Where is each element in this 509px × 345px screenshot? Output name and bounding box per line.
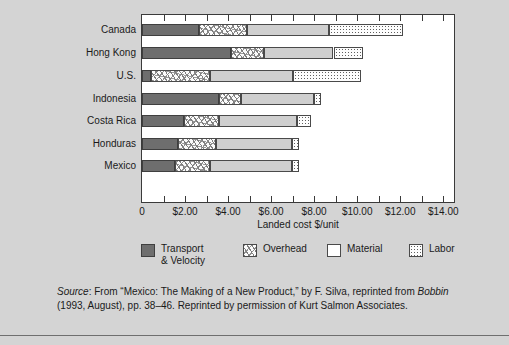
category-axis-labels: CanadaHong KongU.S.IndonesiaCosta RicaHo…	[38, 14, 136, 203]
bottom-divider	[0, 335, 509, 336]
category-label: Costa Rica	[40, 115, 136, 127]
tick-mark	[336, 196, 337, 202]
tick-mark	[443, 196, 444, 202]
legend-label: Labor	[429, 243, 455, 255]
source-journal: Bobbin	[418, 286, 449, 297]
bar-segment-transport	[142, 160, 175, 172]
tick-mark	[185, 196, 186, 202]
category-label: Indonesia	[40, 93, 136, 105]
legend-label: Material	[347, 243, 383, 255]
legend-item-labor: Labor	[409, 243, 455, 257]
chart-plot-area	[141, 14, 455, 203]
bar-segment-overhead	[219, 93, 241, 105]
bar-segment-labor	[297, 115, 311, 127]
legend-swatch-material	[327, 244, 341, 257]
legend-swatch-transport	[141, 244, 155, 257]
figure-panel: CanadaHong KongU.S.IndonesiaCosta RicaHo…	[0, 0, 509, 345]
tick-mark	[400, 196, 401, 202]
category-label: Honduras	[40, 138, 136, 150]
tick-mark	[314, 196, 315, 202]
bar-segment-overhead	[178, 138, 217, 150]
bar-segment-material	[219, 115, 296, 127]
legend-item-material: Material	[327, 243, 383, 257]
bar-segment-overhead	[199, 24, 247, 36]
bar-segment-labor	[314, 93, 320, 105]
source-text-1: : From “Mexico: The Making of a New Prod…	[89, 286, 418, 297]
tick-mark	[250, 196, 251, 202]
bar-segment-overhead	[151, 70, 210, 82]
category-label: U.S.	[40, 70, 136, 82]
bar-segment-material	[264, 47, 334, 59]
bar-segment-overhead	[175, 160, 209, 172]
legend-label: Transport & Velocity	[161, 243, 205, 267]
bar-segment-transport	[142, 24, 199, 36]
source-label: Source	[57, 286, 89, 297]
bar-segment-overhead	[231, 47, 263, 59]
bar-segment-material	[241, 93, 314, 105]
x-axis-tick-label: $12.00	[385, 205, 416, 218]
x-axis-tick-label: $6.00	[259, 205, 284, 218]
stacked-bars	[142, 15, 454, 202]
legend-swatch-overhead	[243, 244, 257, 257]
bar-segment-labor	[329, 24, 403, 36]
x-axis-tick-label: $8.00	[302, 205, 327, 218]
bar-segment-transport	[142, 47, 231, 59]
source-text-2: (1993, August), pp. 38–46. Reprinted by …	[57, 300, 408, 311]
x-axis-title: Landed cost $/unit	[141, 219, 455, 230]
bar-segment-overhead	[184, 115, 220, 127]
tick-mark	[379, 196, 380, 202]
x-axis-tick-label: $2.00	[173, 205, 198, 218]
tick-mark	[207, 196, 208, 202]
x-axis-tick-label: $4.00	[216, 205, 241, 218]
tick-mark	[422, 196, 423, 202]
bar-segment-transport	[142, 115, 184, 127]
bar-segment-transport	[142, 70, 151, 82]
legend-swatch-labor	[409, 244, 423, 257]
tick-mark	[271, 196, 272, 202]
bar-segment-material	[216, 138, 291, 150]
bar-segment-labor	[292, 160, 300, 172]
x-axis-tick-label: $14.00	[428, 205, 459, 218]
bar-segment-transport	[142, 93, 219, 105]
x-axis-tick-label: 0	[139, 205, 145, 218]
bar-segment-labor	[334, 47, 363, 59]
bar-segment-transport	[142, 138, 178, 150]
legend-item-transport: Transport & Velocity	[141, 243, 205, 267]
bar-segment-labor	[292, 138, 300, 150]
category-label: Canada	[40, 24, 136, 36]
tick-mark	[293, 196, 294, 202]
cropped-title-fragment	[0, 0, 509, 8]
bottom-tick-marks	[142, 195, 454, 202]
bar-segment-material	[210, 70, 293, 82]
source-note: Source: From “Mexico: The Making of a Ne…	[57, 285, 462, 312]
bar-segment-material	[247, 24, 329, 36]
legend-item-overhead: Overhead	[243, 243, 307, 257]
tick-mark	[228, 196, 229, 202]
value-axis-labels: 0$2.00$4.00$6.00$8.00$10.00$12.00$14.00	[0, 205, 509, 219]
category-label: Mexico	[40, 160, 136, 172]
tick-mark	[357, 196, 358, 202]
bar-segment-labor	[293, 70, 362, 82]
x-axis-tick-label: $10.00	[342, 205, 373, 218]
category-label: Hong Kong	[40, 47, 136, 59]
bar-segment-material	[210, 160, 292, 172]
tick-mark	[164, 196, 165, 202]
legend-label: Overhead	[263, 243, 307, 255]
chart-legend: Transport & VelocityOverheadMaterialLabo…	[141, 243, 471, 277]
